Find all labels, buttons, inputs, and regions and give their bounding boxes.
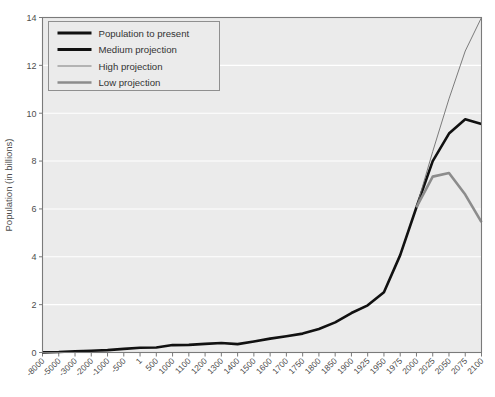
legend-label-2: Medium projection — [99, 44, 177, 55]
x-tick-label: 1925 — [351, 356, 371, 376]
y-tick-label: 6 — [31, 204, 36, 214]
x-tick-label: 2100 — [465, 356, 485, 376]
y-axis-title: Population (in billions) — [3, 139, 14, 232]
y-tick-label: 12 — [26, 61, 36, 71]
legend-label-4: Low projection — [99, 77, 161, 88]
x-tick-label: 1800 — [303, 356, 323, 376]
x-tick-label: 1850 — [319, 356, 339, 376]
legend-label-3: High projection — [99, 61, 163, 72]
x-tick-label: 1900 — [335, 356, 355, 376]
chart-canvas: 02468101214-8000-5000-3000-2000-1000-500… — [0, 0, 495, 397]
x-tick-label: 1200 — [189, 356, 209, 376]
x-tick-label: 1100 — [173, 356, 193, 376]
x-tick-label: 1975 — [384, 356, 404, 376]
x-tick-label: 1750 — [286, 356, 306, 376]
x-tick-label: 1000 — [156, 356, 176, 376]
x-tick-label: 1500 — [238, 356, 258, 376]
y-tick-label: 8 — [31, 156, 36, 166]
x-tick-label: 1400 — [221, 356, 241, 376]
x-tick-label: 1 — [134, 356, 145, 367]
x-tick-label: 2025 — [416, 356, 436, 376]
x-tick-label: 2075 — [449, 356, 469, 376]
y-tick-label: 4 — [31, 252, 36, 262]
x-tick-label: 1300 — [205, 356, 225, 376]
x-tick-label: 1950 — [368, 356, 388, 376]
x-tick-label: 2050 — [433, 356, 453, 376]
y-tick-label: 10 — [26, 109, 36, 119]
legend-label-1: Population to present — [99, 28, 190, 39]
x-tick-label: -500 — [109, 356, 128, 375]
y-tick-label: 0 — [31, 348, 36, 358]
y-tick-label: 2 — [31, 300, 36, 310]
x-tick-label: 2000 — [400, 356, 420, 376]
y-tick-label: 14 — [26, 13, 36, 23]
population-projection-chart: 02468101214-8000-5000-3000-2000-1000-500… — [0, 0, 495, 397]
x-tick-label: 1700 — [270, 356, 290, 376]
x-tick-label: 1600 — [254, 356, 274, 376]
